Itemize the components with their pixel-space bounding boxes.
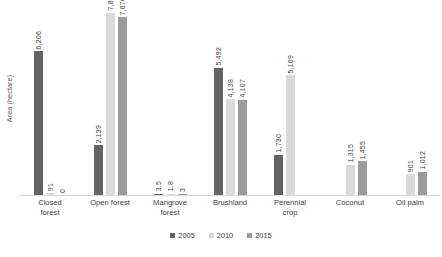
bar-slot-2005 <box>334 6 343 195</box>
bar[interactable] <box>406 174 415 195</box>
bar-value-label: 4,107 <box>239 79 246 98</box>
legend-item-2015[interactable]: 2015 <box>247 231 271 240</box>
y-axis-title-text: Area (hectare) <box>6 74 15 121</box>
bar-slot-2005 <box>394 6 403 195</box>
bar-value-label: 0 <box>59 189 66 193</box>
bar-slot-2015 <box>298 6 307 195</box>
bar-group: 9011,012 <box>380 6 440 195</box>
bar-chart: Area (hectare) 6,2069102,1397,8727,6703.… <box>0 0 442 257</box>
bar-value-label: 3.5 <box>155 181 162 191</box>
bar-value-label: 5,492 <box>215 47 222 66</box>
bar-value-label: 1,455 <box>359 141 366 160</box>
bar-slot-2010: 7,872 <box>106 6 115 195</box>
bar-slot-2010: 901 <box>406 6 415 195</box>
bar[interactable] <box>118 17 127 195</box>
bar-slot-2010: 91 <box>46 6 55 195</box>
bar-slot-2005: 3.5 <box>154 6 163 195</box>
bar-value-label: 2,139 <box>95 125 102 144</box>
bar-group: 3.51.83 <box>140 6 200 195</box>
bar-slot-2015: 0 <box>58 6 67 195</box>
category-label-line1: Open forest <box>80 198 140 208</box>
bar-group: 1,7305,169 <box>260 6 320 195</box>
bar[interactable] <box>226 99 235 195</box>
bar-slot-2010: 1.8 <box>166 6 175 195</box>
legend-label: 2010 <box>217 231 233 240</box>
bar-value-label: 901 <box>407 160 414 172</box>
bar[interactable] <box>178 194 187 195</box>
category-label: Brushland <box>200 198 260 217</box>
bar-slot-2005: 1,730 <box>274 6 283 195</box>
legend-item-2005[interactable]: 2005 <box>170 231 194 240</box>
bar-value-label: 4,138 <box>227 79 234 98</box>
bar[interactable] <box>346 165 355 195</box>
bar-slot-2010: 5,169 <box>286 6 295 195</box>
bar[interactable] <box>94 145 103 195</box>
bar-slot-2005: 2,139 <box>94 6 103 195</box>
bar-slot-2015: 7,670 <box>118 6 127 195</box>
bar-value-label: 1,012 <box>419 151 426 170</box>
bar-group: 6,206910 <box>20 6 80 195</box>
bar-group: 2,1397,8727,670 <box>80 6 140 195</box>
bar-value-label: 91 <box>47 183 54 191</box>
category-label-line1: Brushland <box>200 198 260 208</box>
bar-value-label: 7,670 <box>119 0 126 15</box>
bar[interactable] <box>214 68 223 195</box>
bar[interactable] <box>286 75 295 195</box>
bar-slot-2010: 1,315 <box>346 6 355 195</box>
bar-value-label: 1,730 <box>275 134 282 153</box>
category-label-line1: Oil palm <box>380 198 440 208</box>
category-label: Closedforest <box>20 198 80 217</box>
bar-slot-2010: 4,138 <box>226 6 235 195</box>
category-label-line1: Closed <box>20 198 80 208</box>
legend-label: 2005 <box>178 231 194 240</box>
bar-slot-2015: 4,107 <box>238 6 247 195</box>
y-axis-title: Area (hectare) <box>2 0 18 196</box>
bar[interactable] <box>106 13 115 195</box>
legend-swatch-icon <box>209 233 214 238</box>
category-label: Open forest <box>80 198 140 217</box>
legend-swatch-icon <box>170 233 175 238</box>
bar[interactable] <box>46 193 55 195</box>
category-label: Coconut <box>320 198 380 217</box>
bar[interactable] <box>274 155 283 195</box>
bar-slot-2005: 6,206 <box>34 6 43 195</box>
bar[interactable] <box>154 194 163 195</box>
bar[interactable] <box>238 100 247 195</box>
category-label-line2: forest <box>20 208 80 218</box>
category-label: Perennialcrop <box>260 198 320 217</box>
category-label-line1: Perennial <box>260 198 320 208</box>
category-label-line1: Mangrove <box>140 198 200 208</box>
bar-value-label: 3 <box>179 188 186 192</box>
bar-value-label: 6,206 <box>35 31 42 50</box>
bar-value-label: 1,315 <box>347 144 354 163</box>
legend-label: 2015 <box>255 231 271 240</box>
bar-value-label: 5,169 <box>287 55 294 74</box>
category-label-line2: forest <box>140 208 200 218</box>
category-axis: ClosedforestOpen forestMangroveforestBru… <box>20 198 440 217</box>
plot-area: 6,2069102,1397,8727,6703.51.835,4924,138… <box>20 6 440 196</box>
bar-slot-2015: 1,455 <box>358 6 367 195</box>
bar[interactable] <box>166 194 175 195</box>
bar-slot-2015: 3 <box>178 6 187 195</box>
legend-swatch-icon <box>247 233 252 238</box>
bar[interactable] <box>418 172 427 195</box>
bar[interactable] <box>34 51 43 195</box>
bar-value-label: 7,872 <box>107 0 114 11</box>
bar-group: 5,4924,1384,107 <box>200 6 260 195</box>
bar-group: 1,3151,455 <box>320 6 380 195</box>
bar-slot-2005: 5,492 <box>214 6 223 195</box>
category-label: Oil palm <box>380 198 440 217</box>
bar-slot-2015: 1,012 <box>418 6 427 195</box>
bar[interactable] <box>358 161 367 195</box>
bar-value-label: 1.8 <box>167 181 174 191</box>
category-label-line2: crop <box>260 208 320 218</box>
chart-legend: 200520102015 <box>0 231 442 240</box>
category-label: Mangroveforest <box>140 198 200 217</box>
category-label-line1: Coconut <box>320 198 380 208</box>
legend-item-2010[interactable]: 2010 <box>209 231 233 240</box>
